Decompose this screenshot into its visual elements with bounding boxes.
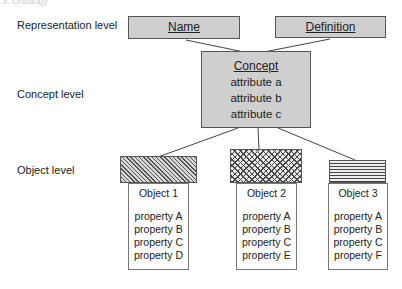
object-2-pattern bbox=[230, 149, 302, 183]
object-2-title: Object 2 bbox=[237, 187, 296, 200]
concept-box: Concept attribute a attribute b attribut… bbox=[201, 51, 311, 128]
name-box: Name bbox=[128, 16, 240, 39]
name-label: Name bbox=[129, 17, 239, 38]
object-3-property: property C bbox=[329, 236, 387, 249]
object-1-title: Object 1 bbox=[129, 187, 188, 200]
object-level-label: Object level bbox=[17, 164, 74, 176]
object-3-box: Object 3 property A property B property … bbox=[328, 183, 388, 270]
attribute-b: attribute b bbox=[230, 90, 281, 106]
object-2-property: property A bbox=[237, 210, 296, 223]
definition-box: Definition bbox=[275, 16, 386, 38]
object-3-title: Object 3 bbox=[329, 187, 387, 200]
representation-level-label: Representation level bbox=[17, 19, 117, 31]
object-1-pattern bbox=[120, 156, 197, 183]
object-1-property: property A bbox=[129, 210, 188, 223]
concept-level-label: Concept level bbox=[17, 88, 84, 100]
object-3-property: property F bbox=[329, 249, 387, 262]
object-1-box: Object 1 property A property B property … bbox=[128, 183, 189, 270]
object-2-property: property E bbox=[237, 249, 296, 262]
object-1-property: property C bbox=[129, 236, 188, 249]
concept-title: Concept bbox=[234, 58, 279, 74]
object-2-box: Object 2 property A property B property … bbox=[236, 183, 297, 270]
object-2-property: property C bbox=[237, 236, 296, 249]
faded-header-text: 3. Ontology bbox=[2, 0, 48, 6]
object-1-property: property B bbox=[129, 223, 188, 236]
object-2-property: property B bbox=[237, 223, 296, 236]
object-3-property: property A bbox=[329, 210, 387, 223]
attribute-a: attribute a bbox=[230, 74, 281, 90]
attribute-c: attribute c bbox=[231, 106, 282, 122]
object-1-property: property D bbox=[129, 249, 188, 262]
object-3-pattern bbox=[329, 160, 386, 183]
object-3-property: property B bbox=[329, 223, 387, 236]
definition-label: Definition bbox=[276, 17, 385, 37]
